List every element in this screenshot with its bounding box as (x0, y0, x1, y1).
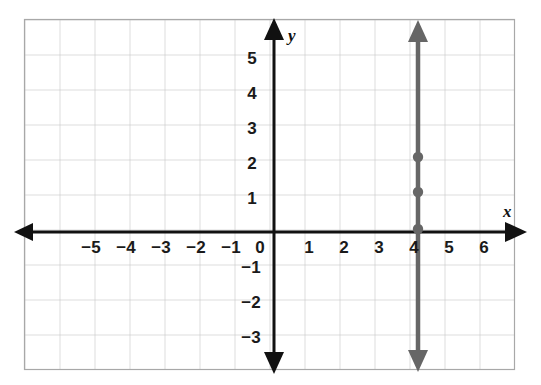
x-tick-label-2: 2 (328, 239, 360, 256)
plotted-point-4-1 (413, 187, 423, 197)
graph-canvas (0, 0, 541, 385)
plotted-point-4-2 (413, 152, 423, 162)
plotted-point-4-0 (413, 224, 423, 234)
y-tick-label-2: 2 (240, 155, 264, 172)
y-tick-label-4: 4 (240, 85, 264, 102)
grid-background (25, 20, 515, 370)
y-tick-label--3: −3 (234, 329, 268, 346)
x-axis-arrow-right (505, 222, 527, 242)
x-tick-label--2: −2 (179, 239, 213, 256)
y-tick-label-3: 3 (240, 120, 264, 137)
x-tick-label--5: −5 (74, 239, 108, 256)
x-tick-label-6: 6 (468, 239, 500, 256)
y-tick-label-5: 5 (240, 50, 264, 67)
y-tick-label-1: 1 (240, 190, 264, 207)
x-tick-label-5: 5 (433, 239, 465, 256)
x-tick-label-1: 1 (293, 239, 325, 256)
x-axis-name: x (503, 203, 512, 220)
x-tick-label-4: 4 (398, 239, 430, 256)
x-axis-arrow-left (14, 223, 33, 241)
coordinate-plane-figure: y x 0 −5 −4 −3 −2 −1 1 2 3 4 5 6 5 4 3 2… (0, 0, 541, 385)
y-tick-label--1: −1 (234, 259, 268, 276)
origin-label: 0 (249, 239, 271, 256)
x-tick-label-3: 3 (363, 239, 395, 256)
y-axis-name: y (288, 27, 296, 44)
x-tick-label--4: −4 (109, 239, 143, 256)
x-tick-label--1: −1 (214, 239, 248, 256)
x-tick-label--3: −3 (144, 239, 178, 256)
y-tick-label--2: −2 (234, 294, 268, 311)
